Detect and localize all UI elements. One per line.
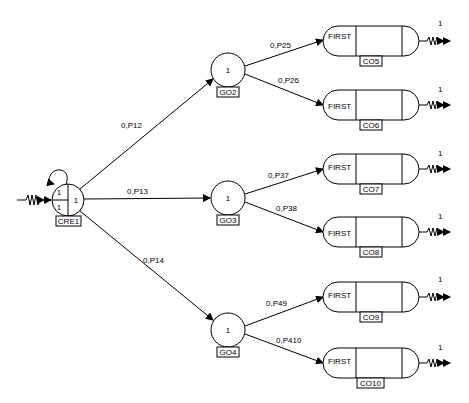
go4-value: 1 xyxy=(226,326,231,335)
source-node-cre1[interactable]: 1 1 1 CRE1 xyxy=(17,170,84,226)
node-co7[interactable]: FIRST CO7 1 xyxy=(323,149,450,194)
co6-output-value: 1 xyxy=(438,85,443,94)
output-resistor-icon xyxy=(419,293,444,301)
output-resistor-icon xyxy=(419,228,444,236)
co7-output-value: 1 xyxy=(438,149,443,158)
co5-label: CO5 xyxy=(363,57,380,66)
cre1-value-top-left: 1 xyxy=(57,188,62,197)
node-co8[interactable]: FIRST CO8 1 xyxy=(323,212,450,257)
co5-text: FIRST xyxy=(328,32,351,41)
edge-cre1-go3[interactable]: 0,P13 xyxy=(84,187,210,199)
node-co5[interactable]: FIRST CO5 1 xyxy=(323,19,450,66)
co10-output-value: 1 xyxy=(438,343,443,352)
edge-label-p49: 0,P49 xyxy=(266,299,287,308)
co9-output-value: 1 xyxy=(438,275,443,284)
cre1-label: CRE1 xyxy=(58,217,80,226)
go3-label: GO3 xyxy=(220,216,237,225)
go2-value: 1 xyxy=(226,66,231,75)
edge-go3-co8[interactable]: 0,P38 xyxy=(245,202,323,232)
co8-output-value: 1 xyxy=(438,212,443,221)
co6-text: FIRST xyxy=(328,102,351,111)
node-go4[interactable]: 1 GO4 xyxy=(211,313,245,357)
self-loop-arrow-icon xyxy=(49,170,67,184)
edge-cre1-go4[interactable]: 0,P14 xyxy=(80,211,213,320)
co7-text: FIRST xyxy=(328,163,351,172)
co5-output-value: 1 xyxy=(438,19,443,28)
cre1-value-bottom-left: 1 xyxy=(57,203,62,212)
output-resistor-icon xyxy=(419,101,444,109)
edge-label-p14: 0,P14 xyxy=(143,256,164,265)
edge-go2-co6[interactable]: 0,P26 xyxy=(245,74,323,105)
output-resistor-icon xyxy=(419,359,444,367)
node-co9[interactable]: FIRST CO9 1 xyxy=(323,275,450,322)
co6-label: CO6 xyxy=(363,121,380,130)
edge-go3-co7[interactable]: 0,P37 xyxy=(245,169,323,194)
edge-label-p25: 0,P25 xyxy=(270,41,291,50)
edge-go4-co9[interactable]: 0,P49 xyxy=(245,297,323,326)
edge-label-p12: 0,P12 xyxy=(121,121,142,130)
output-resistor-icon xyxy=(419,165,444,173)
co8-label: CO8 xyxy=(363,248,380,257)
co10-label: CO10 xyxy=(360,379,381,388)
edge-label-p410: 0,P410 xyxy=(276,336,302,345)
output-resistor-icon xyxy=(419,37,444,45)
edge-go2-co5[interactable]: 0,P25 xyxy=(245,40,323,66)
edge-label-p38: 0,P38 xyxy=(276,204,297,213)
edge-label-p26: 0,P26 xyxy=(278,76,299,85)
co8-text: FIRST xyxy=(328,229,351,238)
diagram-canvas: 1 1 1 CRE1 0,P12 0,P13 0,P14 1 GO2 1 GO3… xyxy=(0,0,469,403)
go3-value: 1 xyxy=(226,194,231,203)
co7-label: CO7 xyxy=(363,185,380,194)
cre1-value-right: 1 xyxy=(74,196,79,205)
co10-text: FIRST xyxy=(328,357,351,366)
co9-text: FIRST xyxy=(328,291,351,300)
node-go2[interactable]: 1 GO2 xyxy=(211,53,245,97)
edge-label-p13: 0,P13 xyxy=(127,187,148,196)
node-co6[interactable]: FIRST CO6 1 xyxy=(323,85,450,130)
node-go3[interactable]: 1 GO3 xyxy=(211,181,245,225)
co9-label: CO9 xyxy=(363,313,380,322)
go4-label: GO4 xyxy=(220,348,237,357)
input-resistor-icon xyxy=(17,195,44,205)
edge-cre1-go2[interactable]: 0,P12 xyxy=(80,79,213,189)
edge-go4-co10[interactable]: 0,P410 xyxy=(245,334,323,363)
go2-label: GO2 xyxy=(220,88,237,97)
node-co10[interactable]: FIRST CO10 1 xyxy=(323,343,450,388)
edge-label-p37: 0,P37 xyxy=(268,171,289,180)
